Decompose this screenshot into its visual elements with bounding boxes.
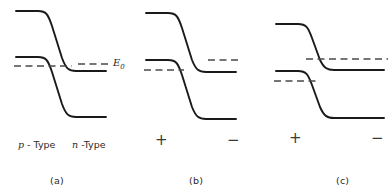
polarity-positive-c: + xyxy=(289,131,302,146)
caption-c: (c) xyxy=(336,175,349,186)
polarity-negative-c: − xyxy=(371,131,384,146)
energy-band-diagram-figure: E0 p - Type n -Type (a) + − (b) + − (c) xyxy=(0,0,391,195)
conduction-band-c xyxy=(276,24,384,70)
valence-band-c xyxy=(276,71,384,118)
panel-c-bands xyxy=(0,0,391,195)
